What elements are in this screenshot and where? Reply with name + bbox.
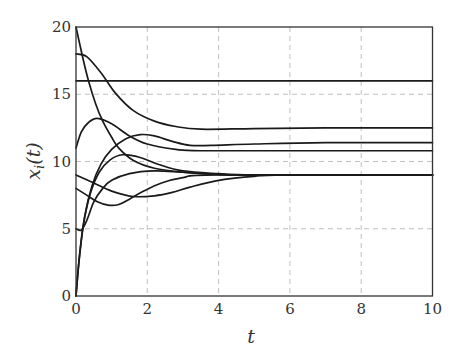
y-axis-label: xi(t) xyxy=(22,142,47,179)
trajectory-x3 xyxy=(76,27,433,175)
x-tick-label: 4 xyxy=(214,300,224,318)
trajectory-x2 xyxy=(76,54,433,129)
x-tick-label: 6 xyxy=(285,300,295,318)
x-tick-labels: 0246810 xyxy=(71,300,442,318)
trajectory-x7 xyxy=(76,171,433,231)
y-tick-label: 10 xyxy=(52,153,71,171)
y-tick-labels: 05101520 xyxy=(52,18,71,305)
y-axis-label-arg: (t) xyxy=(22,142,44,164)
trajectory-x4 xyxy=(76,118,433,150)
svg-text:xi(t): xi(t) xyxy=(22,142,47,179)
line-chart: 0246810 05101520 t xi(t) xyxy=(0,0,471,362)
plot-frame xyxy=(76,27,433,296)
y-tick-label: 15 xyxy=(52,85,71,103)
trajectory-x9 xyxy=(76,175,433,206)
y-tick-label: 0 xyxy=(61,287,71,305)
grid-lines xyxy=(76,27,433,296)
y-axis-label-base: x xyxy=(22,169,44,180)
x-tick-label: 10 xyxy=(423,300,442,318)
y-tick-label: 5 xyxy=(61,220,71,238)
trajectory-curves xyxy=(76,27,433,296)
y-tick-label: 20 xyxy=(52,18,71,36)
trajectory-x8 xyxy=(76,175,433,197)
x-tick-label: 8 xyxy=(356,300,366,318)
x-tick-label: 0 xyxy=(71,300,81,318)
x-tick-label: 2 xyxy=(143,300,153,318)
x-axis-label: t xyxy=(247,325,255,347)
